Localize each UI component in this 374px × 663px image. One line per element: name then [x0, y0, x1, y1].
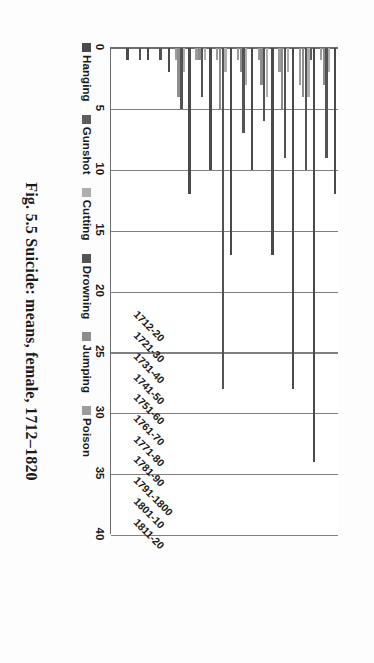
- bar: [299, 48, 301, 85]
- bar: [305, 48, 307, 170]
- bar: [139, 48, 141, 60]
- bar: [334, 48, 336, 194]
- bar: [271, 48, 273, 255]
- bar: [180, 48, 182, 109]
- bar: [209, 48, 211, 170]
- legend-item-label: Jumping: [81, 344, 93, 393]
- bar-group: [255, 48, 276, 534]
- legend-item-label: Poison: [81, 418, 93, 457]
- bar: [168, 48, 170, 72]
- bar: [224, 48, 226, 72]
- bar: [287, 48, 289, 72]
- value-tick-label: 40: [94, 528, 106, 541]
- bar: [242, 48, 244, 133]
- bar: [198, 48, 200, 60]
- bar: [328, 48, 330, 72]
- value-tick-label: 0: [94, 44, 106, 50]
- legend-item[interactable]: Jumping: [81, 332, 93, 393]
- value-tick-label: 20: [94, 284, 106, 297]
- value-tick-label: 10: [94, 162, 106, 175]
- figure-caption: Fig. 5.5 Suicide: means, female, 1712–18…: [22, 0, 40, 663]
- bar: [201, 48, 203, 97]
- rotated-figure-wrapper: 0510152025303540 1712-201721-301731-4017…: [0, 0, 374, 663]
- bar: [204, 48, 206, 60]
- bar: [313, 48, 315, 462]
- bar-group: [297, 48, 318, 534]
- bar: [307, 48, 309, 97]
- bar-group: [276, 48, 297, 534]
- bar: [284, 48, 286, 158]
- bar: [302, 48, 304, 97]
- bar: [175, 48, 177, 60]
- legend-swatch-icon: [82, 254, 91, 263]
- bar-group: [193, 48, 214, 534]
- legend-item[interactable]: Hanging: [81, 43, 93, 102]
- bar: [278, 48, 280, 72]
- legend-item-label: Gunshot: [81, 127, 93, 175]
- legend-swatch-icon: [82, 43, 91, 52]
- bar: [263, 48, 265, 121]
- legend-swatch-icon: [82, 115, 91, 124]
- legend-item-label: Hanging: [81, 55, 93, 102]
- bar: [292, 48, 294, 389]
- bar: [323, 48, 325, 85]
- legend-item[interactable]: Cutting: [81, 188, 93, 241]
- legend-item-label: Drowning: [81, 266, 93, 320]
- bar: [245, 48, 247, 85]
- value-tick-label: 30: [94, 406, 106, 419]
- value-tick-label: 5: [94, 105, 106, 111]
- bar: [177, 48, 179, 97]
- legend-swatch-icon: [82, 332, 91, 341]
- figure-page: 0510152025303540 1712-201721-301731-4017…: [0, 0, 374, 663]
- bar: [126, 48, 128, 60]
- bar: [310, 48, 312, 60]
- bar: [325, 48, 327, 158]
- bar-group: [317, 48, 338, 534]
- bar: [147, 48, 149, 60]
- value-tick-label: 15: [94, 223, 106, 236]
- bar: [195, 48, 197, 60]
- bar: [260, 48, 262, 85]
- legend-swatch-icon: [82, 406, 91, 415]
- chart-legend: HangingGunshotCuttingDrowningJumpingPois…: [81, 43, 93, 457]
- bar: [251, 48, 253, 170]
- bar: [266, 48, 268, 97]
- bar: [281, 48, 283, 109]
- legend-item-label: Cutting: [81, 200, 93, 241]
- legend-swatch-icon: [82, 188, 91, 197]
- value-tick-label: 35: [94, 467, 106, 480]
- value-tick-label: 25: [94, 345, 106, 358]
- bar: [237, 48, 239, 60]
- bar: [230, 48, 232, 255]
- bar: [183, 48, 185, 72]
- legend-item[interactable]: Poison: [81, 406, 93, 457]
- bar: [219, 48, 221, 109]
- bar: [159, 48, 161, 60]
- legend-item[interactable]: Drowning: [81, 254, 93, 320]
- bar-group: [214, 48, 235, 534]
- bar: [222, 48, 224, 389]
- bar: [189, 48, 191, 194]
- bar: [240, 48, 242, 72]
- bar-group: [234, 48, 255, 534]
- bar-group: [172, 48, 193, 534]
- bar-group: [110, 48, 131, 534]
- bar: [320, 48, 322, 60]
- bar-chart-figure: 0510152025303540 1712-201721-301731-4017…: [0, 0, 374, 663]
- legend-item[interactable]: Gunshot: [81, 115, 93, 175]
- bar: [258, 48, 260, 60]
- bar: [216, 48, 218, 60]
